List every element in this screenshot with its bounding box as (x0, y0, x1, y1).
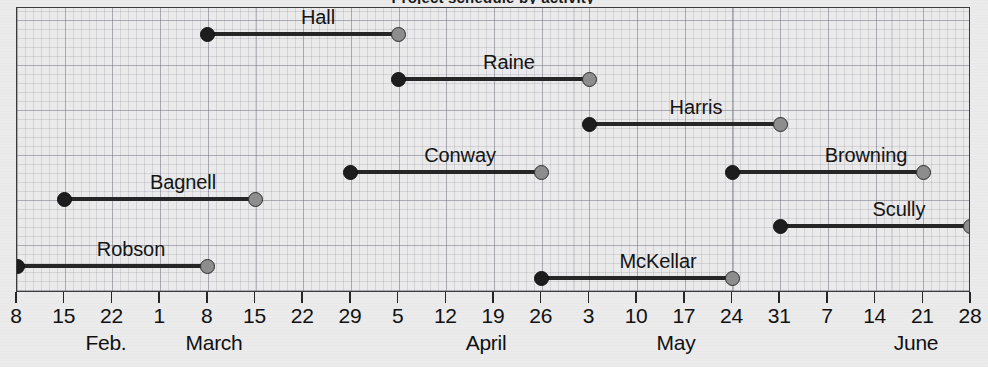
task-duration-line (589, 122, 780, 126)
axis-tick-label: 26 (529, 304, 552, 328)
chart-title: Project schedule by activity (16, 0, 970, 4)
axis-tick-label: 22 (100, 304, 123, 328)
gantt-chart-figure: Project schedule by activity HallRaineHa… (0, 0, 988, 367)
plot-area: HallRaineHarrisConwayBrowningBagnellScul… (16, 7, 970, 292)
axis-tick-label: 14 (863, 304, 886, 328)
task-label: Hall (301, 7, 335, 27)
axis-month-label: April (466, 331, 507, 355)
axis-tick-label: 21 (911, 304, 934, 328)
task-start-marker-icon (200, 27, 215, 42)
task-start-marker-icon (725, 165, 740, 180)
task-end-marker-icon (248, 192, 263, 207)
axis-tick-label: 19 (482, 304, 505, 328)
task-end-marker-icon (916, 165, 931, 180)
task-end-marker-icon (582, 72, 597, 87)
task-start-marker-icon (773, 219, 788, 234)
axis-tick (969, 292, 971, 303)
axis-tick-label: 29 (339, 304, 362, 328)
axis-tick-label: 3 (583, 304, 594, 328)
axis-tick-label: 8 (10, 304, 21, 328)
task-duration-line (542, 276, 733, 280)
axis-tick (683, 292, 685, 303)
axis-tick-label: 22 (291, 304, 314, 328)
axis-tick-label: 5 (392, 304, 403, 328)
axis-tick-label: 15 (243, 304, 266, 328)
task-label: Bagnell (150, 172, 216, 192)
task-start-marker-icon (57, 192, 72, 207)
axis-month-label: June (894, 331, 938, 355)
axis-tick-label: 17 (672, 304, 695, 328)
axis-tick-label: 8 (201, 304, 212, 328)
x-axis: 815221815222951219263101724317142128Feb.… (16, 292, 970, 367)
axis-tick (206, 292, 208, 303)
axis-tick-label: 15 (52, 304, 75, 328)
task-label: Robson (97, 239, 165, 259)
axis-month-label: Feb. (86, 331, 127, 355)
axis-tick (445, 292, 447, 303)
axis-tick (826, 292, 828, 303)
task-end-marker-icon (534, 165, 549, 180)
task-start-marker-icon (391, 72, 406, 87)
task-start-marker-icon (582, 117, 597, 132)
axis-tick (111, 292, 113, 303)
axis-tick (922, 292, 924, 303)
task-label: Raine (483, 52, 535, 72)
axis-tick (349, 292, 351, 303)
task-duration-line (351, 170, 542, 174)
axis-tick-label: 7 (821, 304, 832, 328)
task-duration-line (399, 77, 590, 81)
task-label: Harris (670, 97, 723, 117)
axis-month-label: March (186, 331, 243, 355)
axis-tick (588, 292, 590, 303)
task-end-marker-icon (391, 27, 406, 42)
axis-tick (540, 292, 542, 303)
axis-tick (15, 292, 17, 303)
axis-tick (778, 292, 780, 303)
axis-tick-label: 24 (720, 304, 743, 328)
axis-tick (301, 292, 303, 303)
task-duration-line (17, 264, 208, 268)
axis-tick (635, 292, 637, 303)
axis-tick (397, 292, 399, 303)
task-duration-line (65, 197, 256, 201)
axis-tick (492, 292, 494, 303)
task-end-marker-icon (725, 271, 740, 286)
task-start-marker-icon (16, 259, 25, 274)
axis-tick-label: 12 (434, 304, 457, 328)
task-label: Conway (424, 145, 496, 165)
task-end-marker-icon (200, 259, 215, 274)
axis-tick (63, 292, 65, 303)
axis-tick (158, 292, 160, 303)
axis-tick (731, 292, 733, 303)
task-duration-line (733, 170, 924, 174)
task-start-marker-icon (534, 271, 549, 286)
axis-tick (874, 292, 876, 303)
task-end-marker-icon (963, 219, 970, 234)
axis-tick-label: 28 (959, 304, 982, 328)
task-label: Browning (825, 145, 908, 165)
axis-month-label: May (657, 331, 696, 355)
axis-tick-label: 1 (153, 304, 164, 328)
axis-tick-label: 31 (768, 304, 791, 328)
task-label: McKellar (619, 251, 696, 271)
task-start-marker-icon (343, 165, 358, 180)
task-label: Scully (873, 199, 926, 219)
task-duration-line (780, 224, 970, 228)
axis-tick (254, 292, 256, 303)
axis-tick-label: 10 (625, 304, 648, 328)
task-duration-line (208, 32, 399, 36)
task-end-marker-icon (773, 117, 788, 132)
